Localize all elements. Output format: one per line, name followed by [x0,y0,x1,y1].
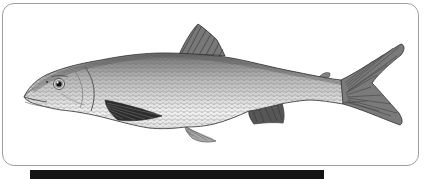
dorsal-fin [178,24,225,57]
pelvic-fin [185,126,216,142]
figure-card [2,3,419,166]
eye [54,79,65,90]
caption-bar [30,170,324,179]
nostril [46,81,48,83]
caudal-fin [341,44,404,125]
fish-illustration [2,3,419,166]
fish-body [24,53,343,129]
